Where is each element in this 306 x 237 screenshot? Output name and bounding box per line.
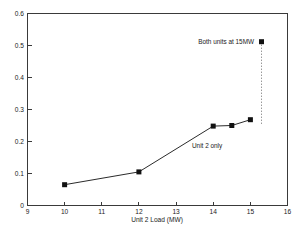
y-axis-tick-labels: 0 0.1 0.2 0.3 0.4 0.5 0.6 bbox=[15, 10, 25, 209]
y-tick-label-5: 0.5 bbox=[15, 42, 24, 49]
x-axis-tick-labels: 9 10 11 12 13 14 15 16 bbox=[26, 208, 292, 215]
y-tick-label-4: 0.4 bbox=[15, 74, 24, 81]
chart-figure: 0 0.1 0.2 0.3 0.4 0.5 0.6 9 10 11 12 13 bbox=[0, 0, 306, 237]
annotation-unit-2-only: Unit 2 only bbox=[192, 142, 223, 150]
x-tick-label-6: 15 bbox=[247, 208, 255, 215]
series-line-unit2-only bbox=[65, 120, 251, 185]
x-tick-label-4: 13 bbox=[172, 208, 180, 215]
y-axis-ticks bbox=[28, 14, 32, 206]
x-tick-label-2: 11 bbox=[98, 208, 105, 215]
y-tick-label-6: 0.6 bbox=[15, 10, 24, 17]
y-tick-label-2: 0.2 bbox=[15, 138, 24, 145]
data-point-marker bbox=[136, 169, 141, 174]
x-axis-ticks bbox=[28, 202, 288, 206]
chart-plot-svg: 0 0.1 0.2 0.3 0.4 0.5 0.6 9 10 11 12 13 bbox=[0, 0, 306, 237]
x-tick-label-0: 9 bbox=[26, 208, 30, 215]
x-tick-label-3: 12 bbox=[135, 208, 143, 215]
x-tick-label-7: 16 bbox=[284, 208, 292, 215]
data-point-marker bbox=[62, 182, 67, 187]
series-markers-both-units bbox=[259, 39, 264, 44]
data-point-marker bbox=[229, 123, 234, 128]
data-point-marker bbox=[259, 39, 264, 44]
x-tick-label-5: 14 bbox=[210, 208, 218, 215]
data-point-marker bbox=[248, 117, 253, 122]
x-axis-title: Unit 2 Load (MW) bbox=[131, 216, 183, 224]
x-tick-label-1: 10 bbox=[61, 208, 69, 215]
data-point-marker bbox=[211, 124, 216, 129]
annotation-both-units-at-15mw: Both units at 15MW bbox=[198, 38, 255, 45]
y-tick-label-0: 0 bbox=[20, 202, 24, 209]
series-markers-unit2-only bbox=[62, 117, 253, 187]
y-tick-label-3: 0.3 bbox=[15, 106, 24, 113]
y-tick-label-1: 0.1 bbox=[15, 170, 24, 177]
